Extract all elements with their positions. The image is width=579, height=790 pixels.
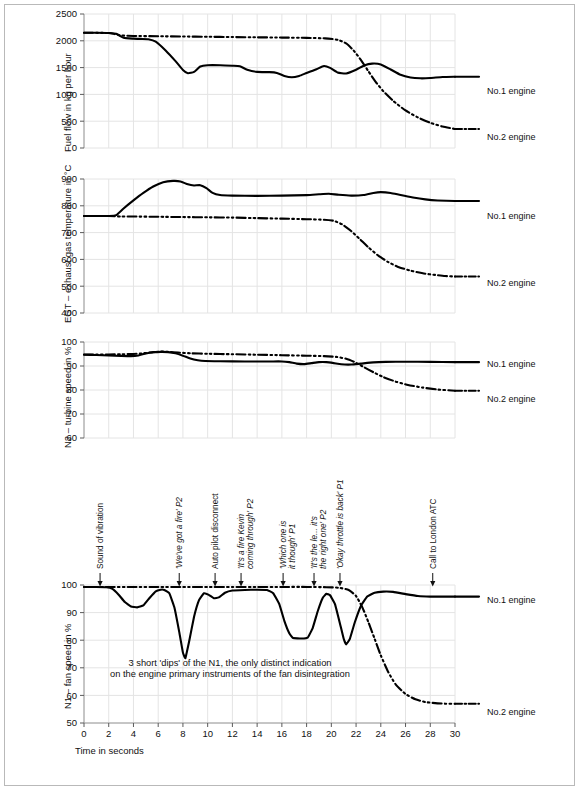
annotation-arrow-head bbox=[97, 581, 102, 587]
x-tick-label: 24 bbox=[376, 728, 387, 739]
y-tick-label: 2000 bbox=[56, 35, 77, 46]
svg-text:it though' P1: it though' P1 bbox=[288, 524, 297, 569]
x-tick-label: 8 bbox=[180, 728, 185, 739]
series-label-engine2-fuel: No.2 engine bbox=[487, 132, 536, 142]
chart-caption-line1: 3 short 'dips' of the N1, the only disti… bbox=[0, 658, 460, 670]
series-line-engine1 bbox=[84, 181, 455, 216]
series-line-engine2 bbox=[84, 587, 455, 704]
annotation-label: Auto pilot disconnect bbox=[211, 493, 220, 569]
series-label-engine1-egt: No.1 engine bbox=[487, 211, 536, 221]
svg-text:Sound of vibration: Sound of vibration bbox=[96, 503, 105, 569]
series-line-engine2 bbox=[84, 352, 455, 391]
x-tick-label: 6 bbox=[156, 728, 161, 739]
y-tick-label: 60 bbox=[66, 432, 77, 443]
panel-egt: EGT – exhaust gas temperature in °C 4005… bbox=[0, 165, 579, 330]
x-tick-label: 20 bbox=[326, 728, 337, 739]
plot-n2: 60708090100 bbox=[0, 330, 579, 455]
series-label-engine2-egt: No.2 engine bbox=[487, 278, 536, 288]
series-line-engine1 bbox=[84, 587, 455, 658]
annotation-label: 'It's the le... it'sthe right one' P2 bbox=[310, 509, 328, 569]
y-tick-label: 2500 bbox=[56, 8, 77, 19]
panel-n2: N2 – turbine speed in % 60708090100 No.1… bbox=[0, 330, 579, 455]
series-label-engine2-n1: No.2 engine bbox=[487, 707, 536, 717]
x-tick-label: 16 bbox=[277, 728, 288, 739]
annotation-arrow-head bbox=[281, 581, 286, 587]
panel-fuel-flow: Fuel flow in kg per hour 050010001500200… bbox=[0, 0, 579, 165]
svg-text:the right one' P2: the right one' P2 bbox=[319, 509, 328, 569]
annotation-arrow-head bbox=[212, 581, 217, 587]
y-tick-label: 100 bbox=[61, 336, 77, 347]
x-tick-label: 26 bbox=[400, 728, 411, 739]
series-label-engine1-fuel: No.1 engine bbox=[487, 86, 536, 96]
annotation-label: 'Which one isit though' P1 bbox=[279, 521, 297, 569]
series-line-engine2 bbox=[84, 216, 455, 277]
series-line-engine2 bbox=[84, 33, 455, 129]
y-tick-label: 400 bbox=[61, 307, 77, 318]
annotation-label: Call to London ATC bbox=[429, 499, 438, 569]
annotation-label: 'It's a fire Kevincoming through' P2 bbox=[237, 498, 255, 569]
plot-egt: 400500600700800900 bbox=[0, 165, 579, 330]
svg-text:Auto pilot disconnect: Auto pilot disconnect bbox=[211, 493, 220, 569]
series-line-engine1 bbox=[84, 33, 455, 79]
y-tick-label: 50 bbox=[66, 717, 77, 728]
annotation-arrow-head bbox=[337, 581, 342, 587]
annotation-arrow-head bbox=[430, 581, 435, 587]
y-tick-label: 60 bbox=[66, 690, 77, 701]
y-tick-label: 90 bbox=[66, 607, 77, 618]
y-tick-label: 1000 bbox=[56, 89, 77, 100]
annotation-label: 'We've got a fire' P2 bbox=[175, 497, 184, 569]
x-tick-label: 22 bbox=[351, 728, 362, 739]
svg-text:'It's the le... it's: 'It's the le... it's bbox=[310, 516, 319, 569]
chart-page: Fuel flow in kg per hour 050010001500200… bbox=[0, 0, 579, 790]
x-tick-label: 18 bbox=[301, 728, 312, 739]
y-tick-label: 0 bbox=[72, 142, 77, 153]
y-tick-label: 900 bbox=[61, 173, 77, 184]
svg-text:'Which one is: 'Which one is bbox=[279, 521, 288, 569]
x-tick-label: 28 bbox=[425, 728, 436, 739]
x-tick-label: 12 bbox=[227, 728, 238, 739]
x-tick-label: 14 bbox=[252, 728, 263, 739]
y-tick-label: 600 bbox=[61, 254, 77, 265]
y-tick-label: 80 bbox=[66, 635, 77, 646]
y-tick-label: 1500 bbox=[56, 62, 77, 73]
y-tick-label: 700 bbox=[61, 227, 77, 238]
svg-text:Call to London ATC: Call to London ATC bbox=[429, 499, 438, 569]
annotation-arrow-head bbox=[238, 581, 243, 587]
axis-label-time: Time in seconds bbox=[75, 745, 144, 756]
annotation-arrow-head bbox=[311, 581, 316, 587]
x-tick-label: 30 bbox=[450, 728, 461, 739]
y-tick-label: 500 bbox=[61, 281, 77, 292]
y-tick-label: 90 bbox=[66, 360, 77, 371]
y-tick-label: 500 bbox=[61, 116, 77, 127]
annotation-arrow-head bbox=[177, 581, 182, 587]
panel-n1: N1 – fan speed in % 50607080901000246810… bbox=[0, 455, 579, 755]
x-tick-label: 4 bbox=[131, 728, 136, 739]
x-tick-label: 10 bbox=[202, 728, 213, 739]
series-label-engine1-n2: No.1 engine bbox=[487, 359, 536, 369]
x-tick-label: 2 bbox=[106, 728, 111, 739]
chart-caption-line2: on the engine primary instruments of the… bbox=[0, 669, 460, 681]
y-tick-label: 70 bbox=[66, 408, 77, 419]
y-tick-label: 80 bbox=[66, 384, 77, 395]
svg-text:'We've got a fire' P2: 'We've got a fire' P2 bbox=[175, 497, 184, 569]
annotation-label: 'Okay throttle is back' P1 bbox=[336, 479, 345, 569]
svg-text:coming through' P2: coming through' P2 bbox=[246, 498, 255, 569]
svg-text:'It's a fire Kevin: 'It's a fire Kevin bbox=[237, 514, 246, 569]
y-tick-label: 800 bbox=[61, 200, 77, 211]
series-label-engine2-n2: No.2 engine bbox=[487, 394, 536, 404]
annotation-label: Sound of vibration bbox=[96, 503, 105, 569]
series-label-engine1-n1: No.1 engine bbox=[487, 595, 536, 605]
x-tick-label: 0 bbox=[81, 728, 86, 739]
svg-text:'Okay throttle is back' P1: 'Okay throttle is back' P1 bbox=[336, 479, 345, 569]
y-tick-label: 100 bbox=[61, 579, 77, 590]
